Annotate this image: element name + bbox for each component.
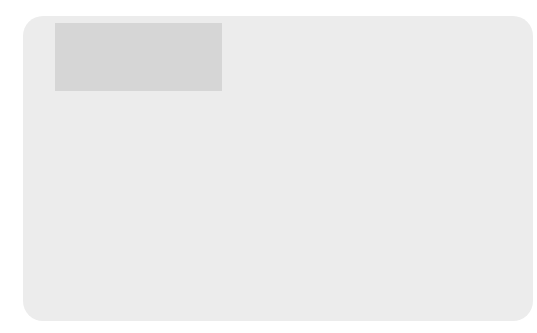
world-map [0,0,537,333]
